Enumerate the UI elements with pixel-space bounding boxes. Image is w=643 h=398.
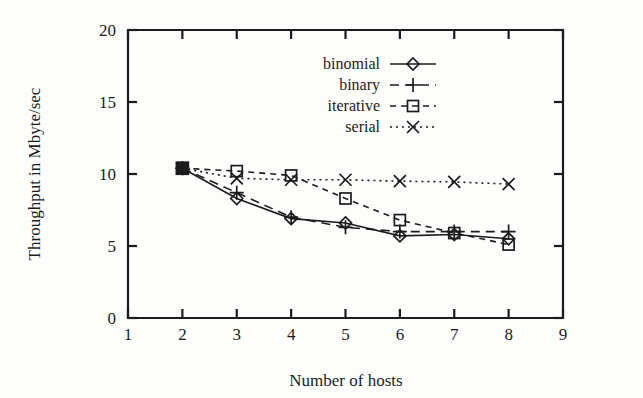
legend-label-binary: binary <box>339 76 380 94</box>
series-serial <box>176 162 514 190</box>
overlapping-markers-block <box>176 162 188 174</box>
x-tick-label: 4 <box>287 325 296 344</box>
y-tick-label: 20 <box>99 21 116 40</box>
y-tick-label: 15 <box>99 93 116 112</box>
chart-legend: binomialbinaryiterativeserial <box>323 55 436 135</box>
x-tick-label: 1 <box>124 325 133 344</box>
y-tick-label: 0 <box>108 309 117 328</box>
y-axis-title: Throughput in Mbyte/sec <box>25 87 44 260</box>
x-tick-label: 5 <box>341 325 350 344</box>
y-tick-label: 10 <box>99 165 116 184</box>
x-axis-title: Number of hosts <box>289 371 402 390</box>
legend-label-serial: serial <box>345 118 380 135</box>
cross-marker <box>503 178 515 190</box>
data-series-layer <box>175 161 515 250</box>
square-marker <box>394 215 405 226</box>
y-tick-label: 5 <box>108 237 117 256</box>
series-iterative <box>177 163 514 250</box>
legend-label-binomial: binomial <box>323 55 380 72</box>
y-axis-tick-labels: 05101520 <box>99 21 116 328</box>
x-axis-tick-labels: 123456789 <box>124 325 568 344</box>
x-tick-label: 9 <box>559 325 568 344</box>
x-tick-label: 2 <box>178 325 187 344</box>
cross-marker <box>231 172 243 184</box>
plus-marker <box>406 78 420 92</box>
x-tick-label: 7 <box>450 325 459 344</box>
x-tick-label: 8 <box>504 325 513 344</box>
legend-label-iterative: iterative <box>328 97 380 114</box>
plus-marker <box>284 210 298 224</box>
x-tick-label: 3 <box>233 325 242 344</box>
cross-marker <box>285 174 297 186</box>
chart-container: 123456789 05101520 binomialbinaryiterati… <box>0 0 643 398</box>
x-tick-label: 6 <box>396 325 405 344</box>
series-binary <box>175 161 515 238</box>
throughput-line-chart: 123456789 05101520 binomialbinaryiterati… <box>0 0 643 398</box>
